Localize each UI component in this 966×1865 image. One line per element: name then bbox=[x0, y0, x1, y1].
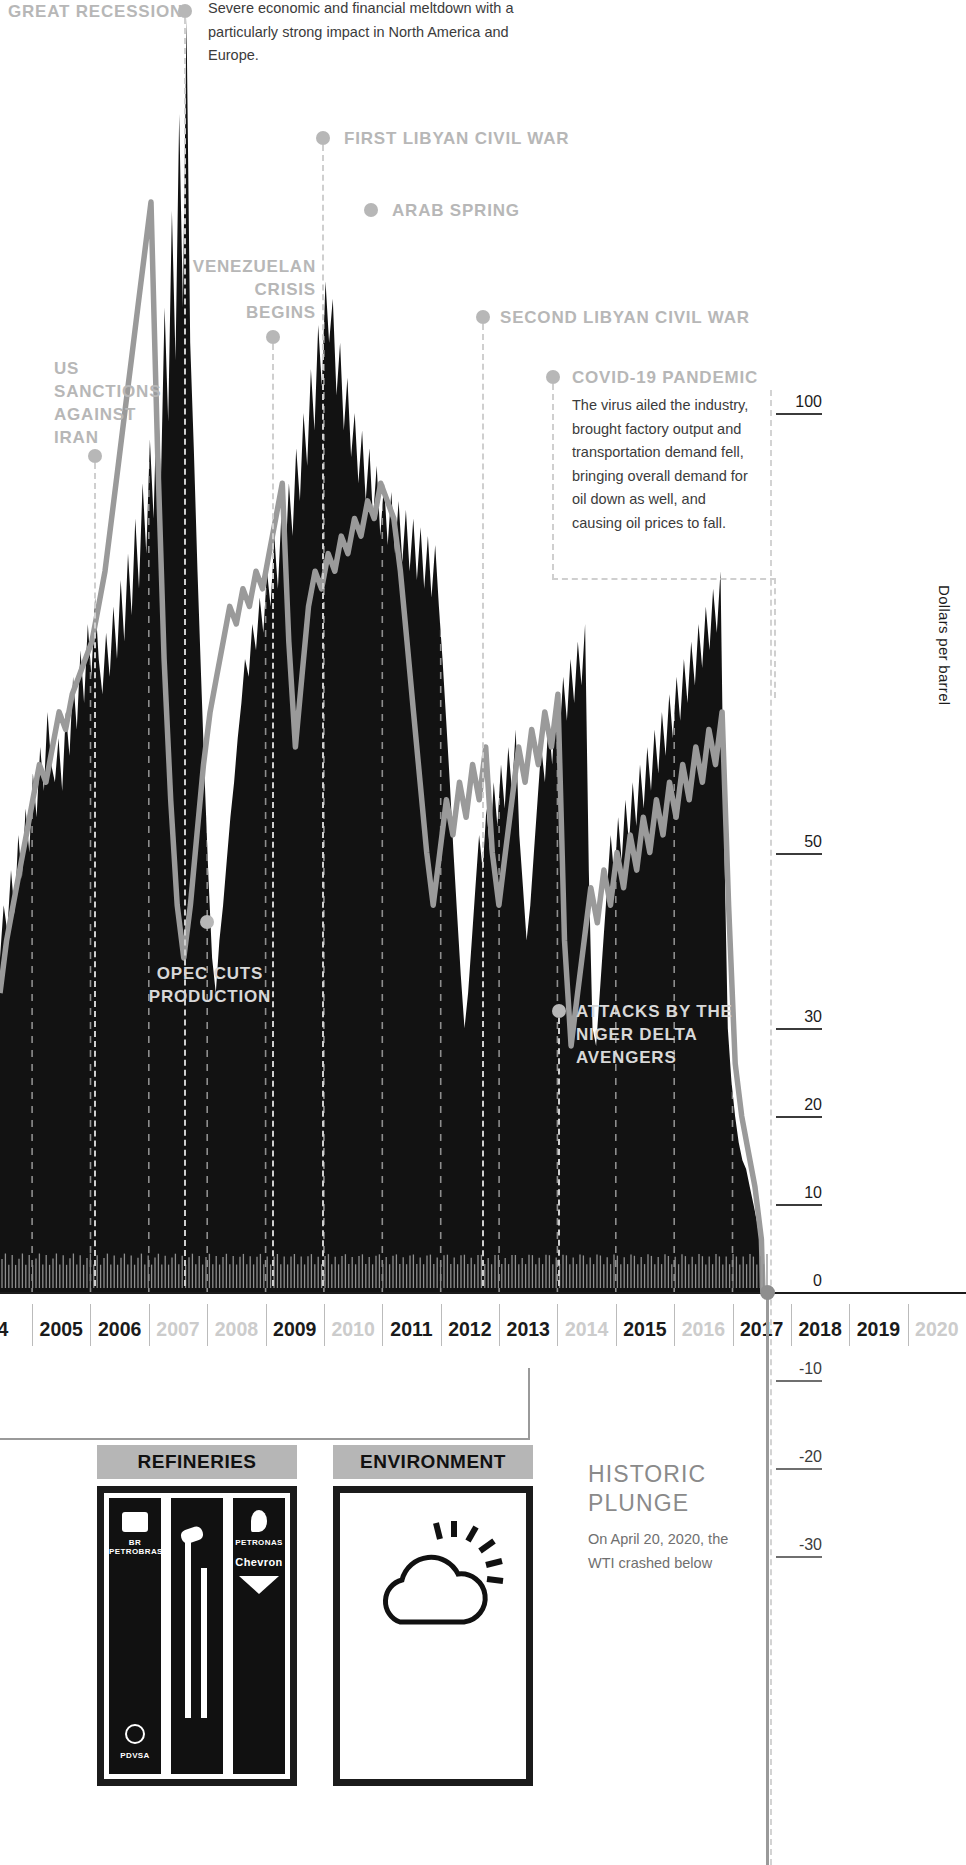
card-image-frame: BR PETROBRAS PDVSA PETRONAS Chevron bbox=[97, 1486, 297, 1786]
x-tick-label: 2016 bbox=[674, 1318, 732, 1341]
x-axis: 4200520062007200820092010201120122013201… bbox=[0, 1292, 966, 1350]
x-tick-separator bbox=[557, 1304, 558, 1346]
section-bracket bbox=[0, 1368, 530, 1440]
price-area-fill bbox=[0, 18, 768, 1293]
logo-petronas-chevron: PETRONAS Chevron bbox=[233, 1498, 285, 1774]
annotation-stem bbox=[184, 18, 186, 1286]
x-tick-label: 2012 bbox=[441, 1318, 499, 1341]
smoke-plume-icon bbox=[179, 1525, 204, 1545]
x-axis-rule bbox=[0, 1292, 966, 1294]
x-tick-label: 2013 bbox=[499, 1318, 557, 1341]
x-tick-label: 2006 bbox=[90, 1318, 148, 1341]
annotation-body: Severe economic and financial meltdown w… bbox=[208, 0, 528, 68]
annotation-dot[interactable] bbox=[178, 4, 192, 18]
x-tick-separator bbox=[207, 1304, 208, 1346]
annotation-dot[interactable] bbox=[316, 131, 330, 145]
x-tick-separator bbox=[324, 1304, 325, 1346]
smokestack-icon bbox=[201, 1568, 207, 1718]
annotation-label: ATTACKS BY THE NIGER DELTA AVENGERS bbox=[576, 1000, 742, 1069]
y-tick-label: 30 bbox=[776, 1008, 822, 1030]
annotation-body: The virus ailed the industry, brought fa… bbox=[572, 394, 754, 535]
x-tick-label: 2011 bbox=[382, 1318, 440, 1341]
x-tick-label: 2009 bbox=[266, 1318, 324, 1341]
logo-petrobras: BR PETROBRAS PDVSA bbox=[109, 1498, 161, 1774]
logo-label: PETRONAS bbox=[233, 1538, 285, 1547]
x-tick-label: 2015 bbox=[616, 1318, 674, 1341]
card-environment[interactable]: ENVIRONMENT bbox=[333, 1445, 533, 1786]
annotation-stem bbox=[558, 1018, 560, 1286]
annotation-dot[interactable] bbox=[88, 449, 102, 463]
pdvsa-logo-mark bbox=[125, 1724, 145, 1744]
annotation-label: SECOND LIBYAN CIVIL WAR bbox=[500, 306, 750, 329]
logo-label: Chevron bbox=[233, 1556, 285, 1568]
x-tick-separator bbox=[674, 1304, 675, 1346]
x-tick-label: 2020 bbox=[908, 1318, 966, 1341]
infographic-root: GREAT RECESSION Severe economic and fina… bbox=[0, 0, 966, 1865]
bottom-section: REFINERIES BR PETROBRAS PDVSA bbox=[0, 1350, 966, 1865]
refinery-logo-grid: BR PETROBRAS PDVSA PETRONAS Chevron bbox=[104, 1493, 290, 1779]
logo-label: PDVSA bbox=[109, 1751, 161, 1760]
x-tick-separator bbox=[90, 1304, 91, 1346]
plunge-marker-dot[interactable] bbox=[760, 1285, 775, 1300]
annotation-label: VENEZUELAN CRISIS BEGINS bbox=[188, 255, 316, 324]
annotation-stem bbox=[482, 324, 484, 1286]
x-tick-label: 2018 bbox=[791, 1318, 849, 1341]
annotation-stem bbox=[94, 463, 96, 1286]
y-tick-label: 100 bbox=[776, 393, 822, 415]
card-refineries[interactable]: REFINERIES BR PETROBRAS PDVSA bbox=[97, 1445, 297, 1786]
annotation-dot[interactable] bbox=[546, 370, 560, 384]
y-tick-label: 20 bbox=[776, 1096, 822, 1118]
x-tick-separator bbox=[616, 1304, 617, 1346]
annotation-label: US SANCTIONS AGAINST IRAN bbox=[54, 357, 170, 449]
x-tick-label: 4 bbox=[0, 1318, 32, 1341]
x-tick-separator bbox=[849, 1304, 850, 1346]
x-tick-label: 2014 bbox=[557, 1318, 615, 1341]
x-tick-separator bbox=[149, 1304, 150, 1346]
chevron-logo-mark bbox=[239, 1576, 279, 1594]
x-tick-label: 2007 bbox=[149, 1318, 207, 1341]
card-title: REFINERIES bbox=[97, 1445, 297, 1479]
x-tick-separator bbox=[32, 1304, 33, 1346]
cloud-sun-icon bbox=[358, 1517, 508, 1667]
annotation-stem bbox=[272, 344, 274, 1286]
card-title: ENVIRONMENT bbox=[333, 1445, 533, 1479]
card-image-frame bbox=[333, 1486, 533, 1786]
logo-label: BR PETROBRAS bbox=[109, 1538, 161, 1556]
annotation-dot[interactable] bbox=[552, 1004, 566, 1018]
x-tick-separator bbox=[791, 1304, 792, 1346]
annotation-elbow-horizontal bbox=[552, 578, 776, 580]
callout-body: On April 20, 2020, the WTI crashed below bbox=[588, 1527, 758, 1575]
annotation-label: ARAB SPRING bbox=[392, 199, 520, 222]
annotation-label: GREAT RECESSION bbox=[8, 0, 168, 23]
annotation-dot[interactable] bbox=[200, 915, 214, 929]
annotation-dot[interactable] bbox=[364, 203, 378, 217]
plunge-guide-line bbox=[766, 1292, 769, 1865]
y-tick-label: 50 bbox=[776, 833, 822, 855]
annotation-label: COVID-19 PANDEMIC bbox=[572, 366, 758, 389]
x-tick-label: 2019 bbox=[849, 1318, 907, 1341]
smokestack-icon bbox=[185, 1538, 191, 1718]
x-tick-separator bbox=[441, 1304, 442, 1346]
annotation-dot[interactable] bbox=[266, 330, 280, 344]
x-tick-label: 2008 bbox=[207, 1318, 265, 1341]
annotation-stem bbox=[552, 384, 554, 580]
x-tick-separator bbox=[382, 1304, 383, 1346]
callout-title: HISTORIC PLUNGE bbox=[588, 1460, 758, 1518]
petronas-logo-mark bbox=[251, 1510, 267, 1532]
refinery-silhouette bbox=[171, 1498, 223, 1774]
annotation-dot[interactable] bbox=[476, 310, 490, 324]
x-tick-separator bbox=[733, 1304, 734, 1346]
x-tick-separator bbox=[266, 1304, 267, 1346]
oil-price-area-chart bbox=[0, 0, 768, 1292]
x-tick-separator bbox=[499, 1304, 500, 1346]
x-tick-label: 2005 bbox=[32, 1318, 90, 1341]
y-tick-label: 0 bbox=[776, 1272, 822, 1294]
historic-plunge-callout: HISTORIC PLUNGE On April 20, 2020, the W… bbox=[588, 1460, 758, 1575]
y-tick-label: 10 bbox=[776, 1184, 822, 1206]
annotation-label: FIRST LIBYAN CIVIL WAR bbox=[344, 127, 569, 150]
x-tick-separator bbox=[908, 1304, 909, 1346]
x-tick-label: 2010 bbox=[324, 1318, 382, 1341]
x-tick-label: 2017 bbox=[733, 1318, 791, 1341]
br-logo-mark bbox=[122, 1512, 148, 1532]
y-axis-title: Dollars per barrel bbox=[936, 585, 953, 705]
